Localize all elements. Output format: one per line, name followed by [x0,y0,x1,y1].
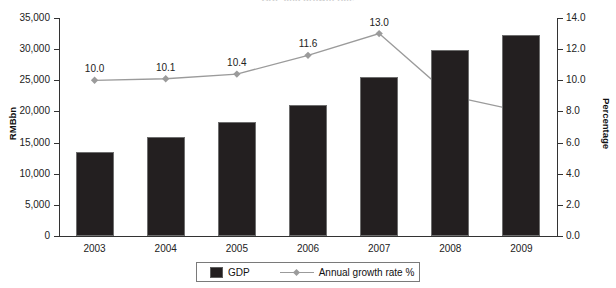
y-axis-line-left [59,18,60,237]
y-tick-mark-right [558,205,563,206]
x-label-2009: 2009 [491,243,551,254]
bar-2009 [502,35,540,236]
y-tick-mark-left [54,80,59,81]
y-tick-mark-right [558,111,563,112]
y-tick-mark-left [54,143,59,144]
chart-legend: GDP Annual growth rate % [196,262,420,282]
data-label-2004: 10.1 [136,62,196,73]
y-tick-mark-right [558,143,563,144]
data-label-2006: 11.6 [278,38,338,49]
y-tick-mark-right [558,18,563,19]
x-label-2005: 2005 [207,243,267,254]
bar-2005 [218,122,256,236]
data-point-2006 [304,52,311,59]
bar-2004 [147,137,185,236]
data-label-2003: 10.0 [65,63,125,74]
bar-2006 [289,105,327,236]
bar-2008 [431,50,469,236]
y-tick-mark-left [54,236,59,237]
y-tick-mark-left [54,111,59,112]
y-tick-mark-right [558,49,563,50]
y-tick-mark-left [54,18,59,19]
bar-2003 [76,152,114,236]
legend-swatch-gdp-icon [210,267,223,278]
data-point-2005 [233,70,240,77]
legend-item-growth-rate: Annual growth rate % [280,263,415,281]
y-tick-mark-left [54,205,59,206]
legend-label-growth-rate: Annual growth rate % [319,267,415,278]
y-tick-mark-right [558,236,563,237]
y-tick-mark-left [54,174,59,175]
data-label-2007: 13.0 [349,17,409,28]
data-point-2004 [162,75,169,82]
data-label-2005: 10.4 [207,57,267,68]
data-point-2003 [91,77,98,84]
x-label-2003: 2003 [65,243,125,254]
x-label-2007: 2007 [349,243,409,254]
legend-item-gdp: GDP [210,263,250,281]
y-tick-mark-left [54,49,59,50]
x-label-2004: 2004 [136,243,196,254]
x-label-2006: 2006 [278,243,338,254]
chart-container: GDP and growth rate RMBbn Percentage 05,… [0,0,616,288]
bar-2007 [360,77,398,236]
y-tick-mark-right [558,174,563,175]
legend-label-gdp: GDP [228,267,250,278]
y-tick-mark-right [558,80,563,81]
legend-line-marker-icon [280,267,314,278]
x-label-2008: 2008 [420,243,480,254]
x-axis-line [59,236,558,237]
